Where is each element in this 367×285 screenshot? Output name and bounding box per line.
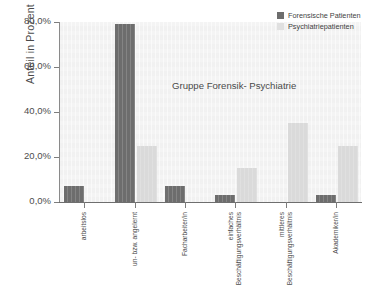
tick-mark	[54, 112, 59, 113]
tick-mark	[54, 157, 59, 158]
x-axis-tick-label: mittleresBeschäftigungsverhältnis	[278, 212, 293, 285]
bar-psychiatric	[137, 146, 157, 202]
y-axis-tick-label: 40,0%	[24, 105, 51, 116]
x-axis-line	[59, 202, 362, 203]
y-axis-tick-label: 80,0%	[24, 15, 51, 26]
plot-area: Gruppe Forensik- Psychiatrie	[59, 22, 361, 202]
x-axis-tick-label: arbeitslos	[80, 212, 88, 285]
tick-mark	[185, 202, 186, 208]
legend-swatch-icon	[277, 23, 284, 30]
x-axis-tick-label: un- bzw. angelernt	[131, 212, 139, 285]
tick-mark	[286, 202, 287, 208]
plot-title: Gruppe Forensik- Psychiatrie	[172, 80, 296, 91]
bar-psychiatric	[288, 123, 308, 202]
legend-item-forensic: Forensische Patienten	[277, 10, 361, 21]
tick-mark	[54, 67, 59, 68]
x-axis-tick-label: Facharbeiter/in	[181, 212, 189, 285]
x-axis-tick-label: einfachesBeschäftigungsverhältnis	[228, 212, 243, 285]
y-axis-tick-label: 60,0%	[24, 60, 51, 71]
legend-swatch-icon	[277, 12, 284, 19]
bar-psychiatric	[338, 146, 358, 202]
tick-mark	[135, 202, 136, 208]
bar-forensic	[115, 24, 135, 202]
tick-mark	[336, 202, 337, 208]
tick-mark	[235, 202, 236, 208]
y-axis-tick-label: 20,0%	[24, 150, 51, 161]
tick-mark	[54, 22, 59, 23]
bar-forensic	[64, 186, 84, 202]
plot-texture	[60, 22, 361, 202]
tick-mark	[54, 202, 59, 203]
legend-label: Psychiatriepatienten	[288, 21, 354, 32]
legend-label: Forensische Patienten	[288, 10, 361, 21]
legend: Forensische Patienten Psychiatriepatient…	[277, 10, 361, 32]
bar-psychiatric	[237, 168, 257, 202]
bar-forensic	[165, 186, 185, 202]
x-axis-tick-label: Akademiker/in	[332, 212, 340, 285]
bar-chart: Anteil in Prozent Gruppe Forensik- Psych…	[0, 0, 367, 285]
tick-mark	[84, 202, 85, 208]
y-axis-tick-label: 0,0%	[29, 195, 51, 206]
legend-item-psychiatric: Psychiatriepatienten	[277, 21, 361, 32]
